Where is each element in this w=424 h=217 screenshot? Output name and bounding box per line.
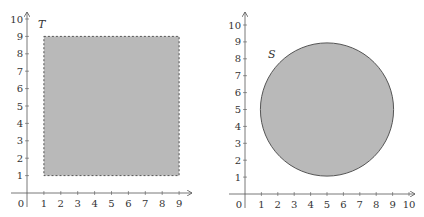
x-tick-0: 0 xyxy=(18,198,24,209)
y-tick-10: 10 xyxy=(10,14,23,25)
y-tick-2: 2 xyxy=(235,155,241,166)
x-tick-3: 3 xyxy=(291,199,297,210)
y-tick-labels: 12345678910 xyxy=(228,20,247,183)
y-tick-2: 2 xyxy=(17,153,23,164)
y-tick-5: 5 xyxy=(235,104,241,115)
y-tick-6: 6 xyxy=(17,83,23,94)
x-tick-10: 10 xyxy=(403,199,416,210)
y-tick-9: 9 xyxy=(235,36,241,47)
x-tick-6: 6 xyxy=(340,199,346,210)
x-tick-7: 7 xyxy=(142,198,148,209)
x-tick-9: 9 xyxy=(389,199,395,210)
y-tick-3: 3 xyxy=(235,138,241,149)
y-tick-8: 8 xyxy=(235,53,241,64)
y-tick-5: 5 xyxy=(17,101,23,112)
x-tick-5: 5 xyxy=(324,199,330,210)
set-label-S: S xyxy=(268,48,276,61)
x-tick-1: 1 xyxy=(41,198,47,209)
x-tick-8: 8 xyxy=(373,199,379,210)
x-tick-4: 4 xyxy=(91,198,97,209)
square-region-T xyxy=(44,36,179,175)
y-tick-10: 10 xyxy=(228,20,241,31)
x-tick-1: 1 xyxy=(258,199,264,210)
x-tick-8: 8 xyxy=(159,198,165,209)
x-tick-3: 3 xyxy=(75,198,81,209)
circle-region-S xyxy=(260,43,393,176)
diagram-circle-S: 012345678910 12345678910 S xyxy=(228,12,415,210)
set-label-T: T xyxy=(38,18,47,31)
y-tick-8: 8 xyxy=(17,48,23,59)
y-tick-9: 9 xyxy=(17,31,23,42)
y-tick-1: 1 xyxy=(235,172,241,183)
set-diagrams-canvas: 0123456789 12345678910 T 012345678910 12… xyxy=(0,0,424,217)
x-tick-7: 7 xyxy=(357,199,363,210)
y-tick-4: 4 xyxy=(17,118,23,129)
y-tick-7: 7 xyxy=(17,66,23,77)
y-tick-1: 1 xyxy=(17,170,23,181)
x-tick-6: 6 xyxy=(125,198,131,209)
x-tick-2: 2 xyxy=(275,199,281,210)
x-tick-labels: 012345678910 xyxy=(236,192,416,210)
y-tick-3: 3 xyxy=(17,135,23,146)
x-tick-0: 0 xyxy=(236,199,242,210)
x-tick-2: 2 xyxy=(58,198,64,209)
x-tick-9: 9 xyxy=(176,198,182,209)
x-tick-5: 5 xyxy=(108,198,114,209)
y-tick-6: 6 xyxy=(235,87,241,98)
y-tick-labels: 12345678910 xyxy=(10,14,29,182)
diagram-square-T: 0123456789 12345678910 T xyxy=(10,12,192,209)
x-tick-4: 4 xyxy=(307,199,313,210)
y-tick-7: 7 xyxy=(235,70,241,81)
y-tick-4: 4 xyxy=(235,121,241,132)
x-tick-labels: 0123456789 xyxy=(18,191,182,209)
